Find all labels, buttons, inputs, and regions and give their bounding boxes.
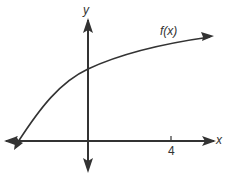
- curve-label: f(x): [160, 25, 177, 37]
- x-axis-label: x: [216, 134, 222, 146]
- x-tick-label-4: 4: [168, 145, 175, 157]
- y-axis-label: y: [83, 4, 89, 16]
- graph-canvas: [0, 0, 226, 176]
- curve-f-of-x: [18, 37, 210, 142]
- curve-right-arrow-icon: [201, 32, 214, 41]
